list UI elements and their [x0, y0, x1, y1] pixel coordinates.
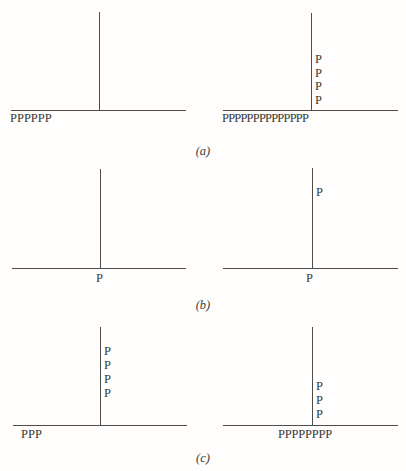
baseline-p-label: PPP — [21, 427, 42, 442]
axis-p-label: P — [104, 344, 111, 358]
axis-p-label: P — [104, 372, 111, 386]
figure-canvas: PPPPPP P P P P PPPPPPPPPPPPPP (a) P P P … — [0, 0, 406, 471]
vertical-axis-line — [311, 13, 312, 110]
vertical-axis-line — [100, 169, 101, 268]
baseline-p-label: PPPPPPPP — [278, 427, 332, 442]
horizontal-axis-line — [13, 425, 187, 426]
axis-p-label: P — [315, 80, 322, 94]
origin-p-label: P — [306, 271, 313, 286]
axis-p-stack: P P P — [316, 379, 323, 421]
axis-p-stack: P — [316, 185, 323, 199]
axis-p-label: P — [315, 67, 322, 81]
axis-p-stack: P P P P — [315, 53, 322, 107]
axis-p-label: P — [316, 393, 323, 407]
axis-p-label: P — [315, 53, 322, 67]
horizontal-axis-line — [12, 268, 186, 269]
horizontal-axis-line — [223, 425, 398, 426]
vertical-axis-line — [99, 12, 100, 110]
row-label-c: (c) — [180, 451, 226, 466]
axis-p-stack: P P P P — [104, 344, 111, 400]
horizontal-axis-line — [223, 268, 398, 269]
vertical-axis-line — [312, 327, 313, 425]
axis-p-label: P — [104, 386, 111, 400]
baseline-p-label: PPPPPPPPPPPPPP — [222, 111, 308, 126]
vertical-axis-line — [312, 168, 313, 268]
row-label-b: (b) — [180, 298, 226, 313]
baseline-p-label: PPPPPP — [10, 111, 52, 126]
axis-p-label: P — [316, 379, 323, 393]
axis-p-label: P — [316, 407, 323, 421]
axis-p-label: P — [316, 185, 323, 199]
vertical-axis-line — [100, 327, 101, 425]
origin-p-label: P — [96, 271, 103, 286]
row-label-a: (a) — [180, 144, 226, 159]
axis-p-label: P — [104, 358, 111, 372]
axis-p-label: P — [315, 94, 322, 108]
